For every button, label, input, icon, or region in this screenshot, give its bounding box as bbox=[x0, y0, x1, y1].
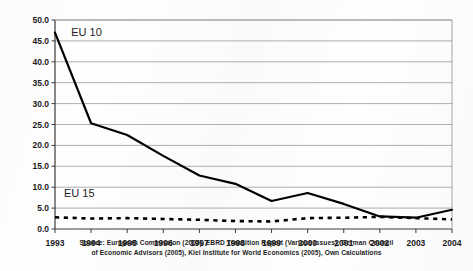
y-tick-label: 0.0 bbox=[37, 224, 49, 234]
series-annotations: EU 10EU 15 bbox=[64, 26, 102, 199]
y-tick-label: 25.0 bbox=[32, 120, 49, 130]
source-line-1: Source: European Commission (2005), EBRD… bbox=[0, 238, 473, 248]
y-tick-label: 50.0 bbox=[32, 15, 49, 25]
y-tick-label: 5.0 bbox=[37, 203, 49, 213]
y-tick-label: 45.0 bbox=[32, 36, 49, 46]
gridlines bbox=[55, 20, 452, 208]
series-label: EU 10 bbox=[71, 26, 102, 38]
y-tick-label: 10.0 bbox=[32, 182, 49, 192]
series-line-eu-10 bbox=[55, 33, 452, 218]
y-tick-label: 35.0 bbox=[32, 78, 49, 88]
line-chart: 0.05.010.015.020.025.030.035.040.045.050… bbox=[0, 0, 473, 271]
y-axis-tick-labels: 0.05.010.015.020.025.030.035.040.045.050… bbox=[32, 15, 49, 234]
plot-frame bbox=[52, 20, 453, 233]
y-tick-label: 40.0 bbox=[32, 57, 49, 67]
source-line-2: of Economic Advisors (2005), Kiel Instit… bbox=[0, 248, 473, 258]
data-series-layer bbox=[55, 33, 452, 222]
y-tick-label: 30.0 bbox=[32, 99, 49, 109]
series-label: EU 15 bbox=[64, 187, 95, 199]
source-note: Source: European Commission (2005), EBRD… bbox=[0, 238, 473, 258]
figure-container: 0.05.010.015.020.025.030.035.040.045.050… bbox=[0, 0, 473, 271]
y-tick-label: 20.0 bbox=[32, 140, 49, 150]
series-line-eu-15 bbox=[55, 217, 452, 222]
y-tick-label: 15.0 bbox=[32, 161, 49, 171]
